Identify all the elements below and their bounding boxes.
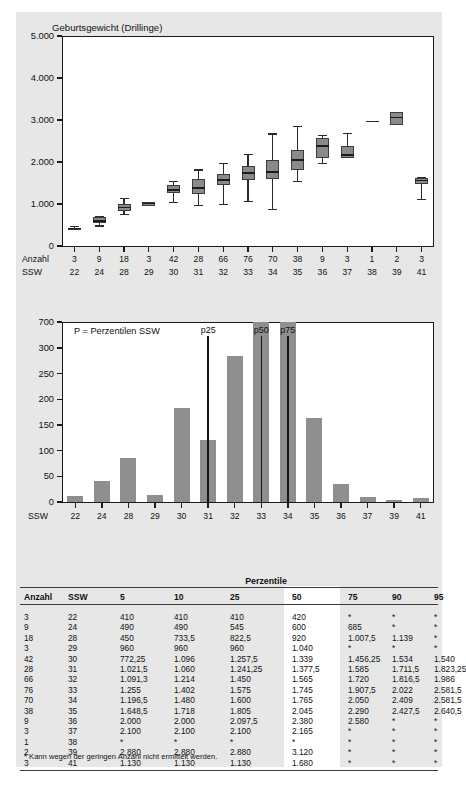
box-iqr <box>341 146 354 158</box>
box-iqr <box>266 160 279 179</box>
whisker-cap-lower <box>293 181 302 182</box>
table-header-p10: 10 <box>174 592 184 602</box>
percentile-marker-label: p75 <box>280 325 295 335</box>
table-header-p95: 95 <box>434 592 444 602</box>
x-tick <box>371 247 372 252</box>
table-cell: 9 <box>24 622 29 632</box>
bar <box>174 408 190 502</box>
median-line <box>167 189 180 191</box>
table-cell: 1.060 <box>174 664 195 674</box>
table-cell: * <box>392 726 395 736</box>
x-tick <box>234 503 235 508</box>
plot-frame <box>62 36 434 246</box>
whisker-upper <box>223 163 224 174</box>
table-cell: 490 <box>174 622 188 632</box>
table-cell: 35 <box>68 706 77 716</box>
table-rule-header <box>20 604 438 605</box>
box-iqr <box>390 112 403 125</box>
table-cell: 2.097,5 <box>230 716 258 726</box>
x-tick <box>393 503 394 508</box>
table-cell: 2.022 <box>392 685 413 695</box>
table-cell: 42 <box>24 654 33 664</box>
x-tick <box>247 247 248 252</box>
table-cell: 1.986 <box>434 674 455 684</box>
x-tick <box>154 503 155 508</box>
table-rule-top <box>20 587 438 588</box>
table-cell: 3 <box>24 643 29 653</box>
table-cell: 1.816,5 <box>392 674 420 684</box>
whisker-cap-lower <box>120 214 129 215</box>
x-tick <box>223 247 224 252</box>
median-line <box>415 180 428 182</box>
table-cell: 70 <box>24 695 33 705</box>
whisker-cap-upper <box>318 135 327 136</box>
table-cell: 960 <box>120 643 134 653</box>
table-cell: 1.377,5 <box>292 664 320 674</box>
table-cell: 2.050 <box>348 695 369 705</box>
y-tick-label: 50 <box>16 471 54 481</box>
report-page: Geburtsgewicht (Drillinge) 01.0002.0003.… <box>16 12 442 767</box>
y-tick <box>57 161 62 162</box>
x-tick <box>297 247 298 252</box>
y-tick <box>57 35 62 36</box>
table-cell: 1.575 <box>230 685 251 695</box>
x-axis <box>62 502 434 503</box>
median-line <box>341 154 354 156</box>
table-cell: 450 <box>120 633 134 643</box>
whisker-upper <box>347 133 348 146</box>
x-tick <box>272 247 273 252</box>
x-tick <box>367 503 368 508</box>
x-tick <box>101 503 102 508</box>
table-cell: 2.165 <box>292 726 313 736</box>
table-cell: 1.196,5 <box>120 695 148 705</box>
table-cell: 22 <box>68 612 77 622</box>
table-cell: 960 <box>230 643 244 653</box>
table-cell: 960 <box>174 643 188 653</box>
table-cell: * <box>434 643 437 653</box>
whisker-cap-lower <box>417 199 426 200</box>
table-cell: 1.007,5 <box>348 633 376 643</box>
y-tick-label: 1.000 <box>16 199 54 209</box>
table-header-p90: 90 <box>392 592 402 602</box>
y-tick-label: 700 <box>16 317 54 327</box>
median-line <box>242 172 255 174</box>
table-cell: 1.139 <box>392 633 413 643</box>
table-cell: 1.711,5 <box>392 664 419 674</box>
bar <box>386 500 402 502</box>
table-cell: 1.339 <box>292 654 313 664</box>
table-cell: 1.907,5 <box>348 685 376 695</box>
whisker-lower <box>421 184 422 198</box>
bar <box>120 458 136 502</box>
box-iqr <box>316 138 329 158</box>
table-cell: 1.565 <box>292 674 313 684</box>
whisker-cap-lower <box>268 209 277 210</box>
table-cell: 545 <box>230 622 244 632</box>
table-cell: 822,5 <box>230 633 251 643</box>
x-tick <box>99 247 100 252</box>
median-line <box>390 117 403 119</box>
y-tick-label: 5.000 <box>16 31 54 41</box>
y-tick-label: 0 <box>16 241 54 251</box>
percentile-marker-label: p25 <box>201 325 216 335</box>
whisker-cap-lower <box>194 205 203 206</box>
table-cell: 1.255 <box>120 685 141 695</box>
y-tick-label: 4.000 <box>16 73 54 83</box>
whisker-cap-lower <box>244 201 253 202</box>
table-cell: 420 <box>292 612 306 622</box>
x-tick <box>207 503 208 508</box>
whisker-cap-upper <box>268 133 277 134</box>
table-cell: 1.456,25 <box>348 654 380 664</box>
bar <box>67 496 83 502</box>
y-tick-label: 2.000 <box>16 157 54 167</box>
legend-note: P = Perzentilen SSW <box>74 326 160 336</box>
table-cell: * <box>434 633 437 643</box>
bar <box>413 498 429 502</box>
table-cell: * <box>348 747 351 757</box>
table-cell: 2.580 <box>348 716 369 726</box>
whisker-cap-upper <box>194 169 203 170</box>
y-tick <box>57 245 62 246</box>
whisker-cap-upper <box>293 126 302 127</box>
table-cell: 1.585 <box>348 664 369 674</box>
whisker-upper <box>198 169 199 179</box>
table-cell: 685 <box>348 622 362 632</box>
